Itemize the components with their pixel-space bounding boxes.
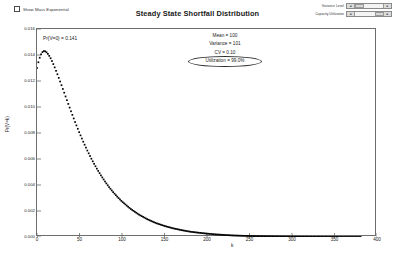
x-axis-tick-label: 0 xyxy=(36,238,39,243)
slider-capacity-utilization[interactable]: ◄ ► xyxy=(346,11,392,17)
y-axis-tick-label: 0.004 xyxy=(24,183,35,187)
slider-right-arrow-icon[interactable]: ► xyxy=(383,4,391,8)
slider-left-arrow-icon[interactable]: ◄ xyxy=(347,4,355,8)
x-axis-tick-label: 250 xyxy=(246,238,254,243)
stat-line: CV = 0.10 xyxy=(169,49,281,57)
y-axis-label: Pr(V=k) xyxy=(6,116,11,132)
x-axis-tick-label: 100 xyxy=(118,238,126,243)
slider-row-capacity-utilization: Capacity Utilization ◄ ► xyxy=(308,11,392,17)
stat-line: Variance = 101 xyxy=(169,40,281,48)
utilization-callout: Utilization = 99.0% xyxy=(206,57,245,65)
prob-zero-annotation: Pr{V=0} = 0.141 xyxy=(43,37,77,42)
stats-annotation-block: Mean = 100Variance = 101CV = 0.10Utiliza… xyxy=(169,32,281,66)
slider-right-arrow-icon[interactable]: ► xyxy=(383,12,391,16)
slider-label-capacity-utilization: Capacity Utilization xyxy=(308,11,344,17)
slider-controls: Variance Level ◄ ► Capacity Utilization … xyxy=(308,3,392,17)
y-axis-tick-label: 0.016 xyxy=(24,27,35,31)
x-axis-tick-label: 350 xyxy=(331,238,339,243)
shortfall-distribution-window: Show Mass Exponential Steady State Short… xyxy=(0,0,395,266)
slider-left-arrow-icon[interactable]: ◄ xyxy=(347,12,355,16)
slider-label-variance-level: Variance Level xyxy=(308,3,344,9)
slider-thumb[interactable] xyxy=(355,4,364,8)
y-axis-tick-label: 0.014 xyxy=(24,53,35,57)
x-axis-label: k xyxy=(231,244,233,249)
y-axis-tick-label: 0.002 xyxy=(24,209,35,213)
y-axis-tick-label: 0.010 xyxy=(24,105,35,109)
y-axis-tick-label: 0.012 xyxy=(24,79,35,83)
data-series-markers xyxy=(37,50,362,237)
slider-variance-level[interactable]: ◄ ► xyxy=(346,3,392,9)
x-axis-tick-label: 200 xyxy=(203,238,211,243)
slider-trough[interactable] xyxy=(355,12,383,16)
chart-plot-area: 0.0000.0020.0040.0060.0080.0100.0120.014… xyxy=(36,28,376,236)
y-axis-tick-label: 0.000 xyxy=(24,235,35,239)
x-axis-tick-label: 150 xyxy=(161,238,169,243)
x-axis-tick-label: 50 xyxy=(77,238,82,243)
stat-line-text: Utilization = 99.0% xyxy=(206,58,245,63)
x-axis-tick-label: 300 xyxy=(288,238,296,243)
stat-line-highlighted: Utilization = 99.0% xyxy=(169,57,281,65)
slider-trough[interactable] xyxy=(355,4,383,8)
slider-thumb[interactable] xyxy=(375,12,384,16)
stat-line: Mean = 100 xyxy=(169,32,281,40)
x-axis-tick-label: 400 xyxy=(373,238,381,243)
slider-row-variance-level: Variance Level ◄ ► xyxy=(308,3,392,9)
y-axis-tick-label: 0.008 xyxy=(24,131,35,135)
y-axis-tick-label: 0.006 xyxy=(24,157,35,161)
